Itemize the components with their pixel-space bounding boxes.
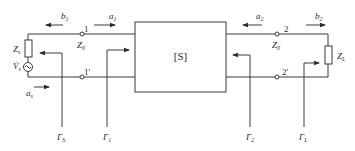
s-matrix-label: [S] bbox=[174, 50, 187, 62]
source-impedance-label: Zs bbox=[13, 44, 21, 55]
terminal-2 bbox=[275, 32, 279, 36]
port1-z0-label: Z0 bbox=[77, 40, 85, 51]
gamma-s-reference-line bbox=[40, 53, 62, 127]
a1-label: a1 bbox=[109, 11, 117, 22]
a2-label: a2 bbox=[256, 11, 264, 22]
gamma-2-label: Γ2 bbox=[245, 132, 254, 143]
two-port-network-diagram: [S] b1 a1 a2 b2 as 1 1′ 2 bbox=[0, 0, 355, 151]
gamma-2-reference-line bbox=[233, 55, 250, 127]
as-label: as bbox=[26, 88, 34, 99]
gamma-s-label: ΓS bbox=[56, 132, 65, 143]
source-voltage-label: V̇s bbox=[13, 61, 22, 72]
gamma-l-label: ΓL bbox=[298, 132, 308, 143]
terminal-1-prime-label: 1′ bbox=[84, 67, 91, 77]
b2-label: b2 bbox=[315, 11, 323, 22]
gamma-1-reference-line bbox=[107, 50, 129, 127]
load-impedance-resistor bbox=[325, 46, 332, 64]
port2-z0-label: Z0 bbox=[272, 40, 280, 51]
gamma-1-label: Γ1 bbox=[102, 132, 111, 143]
b1-label: b1 bbox=[61, 11, 69, 22]
terminal-2-label: 2 bbox=[284, 24, 289, 34]
terminal-2-prime-label: 2′ bbox=[282, 67, 289, 77]
ac-wave-icon bbox=[25, 66, 31, 69]
terminal-1-label: 1 bbox=[84, 24, 89, 34]
terminal-2-prime bbox=[275, 75, 279, 79]
gamma-l-reference-line bbox=[304, 63, 319, 127]
load-impedance-label: ZL bbox=[337, 51, 346, 62]
source-impedance-resistor bbox=[25, 40, 32, 57]
